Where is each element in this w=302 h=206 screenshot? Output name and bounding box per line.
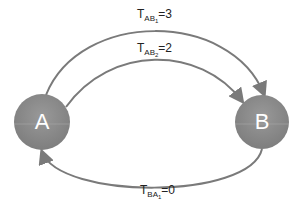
edge-ba1-label: TBA1=0 — [140, 183, 175, 200]
edge-ab1-label: TAB1=3 — [137, 7, 172, 24]
edge-ab2 — [66, 60, 242, 107]
diagram-canvas — [0, 0, 302, 206]
edge-ab2-label: TAB2=2 — [137, 41, 172, 58]
node-b-label: B — [255, 109, 270, 135]
edge-ba1 — [42, 149, 262, 188]
node-a-label: A — [35, 109, 50, 135]
